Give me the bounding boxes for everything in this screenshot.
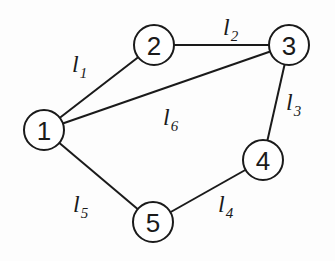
node-label: 3 — [282, 31, 296, 61]
edge-label-l5: l5 — [73, 191, 89, 221]
node-5: 5 — [133, 202, 173, 242]
node-label: 2 — [147, 31, 161, 61]
graph-diagram: 12345 l1l2l3l4l5l6 — [0, 0, 335, 261]
edge-label-l6: l6 — [163, 104, 179, 134]
edge-label-l1: l1 — [72, 51, 87, 81]
node-4: 4 — [243, 140, 283, 180]
edge-label-l2: l2 — [223, 14, 239, 44]
node-1: 1 — [24, 110, 64, 150]
node-3: 3 — [269, 25, 309, 65]
edge-l5 — [44, 130, 153, 222]
node-label: 5 — [146, 208, 160, 238]
graph-svg: 12345 l1l2l3l4l5l6 — [0, 0, 335, 261]
node-label: 1 — [37, 116, 51, 146]
node-label: 4 — [256, 146, 270, 176]
node-2: 2 — [134, 25, 174, 65]
edge-label-l4: l4 — [218, 191, 234, 221]
edge-label-l3: l3 — [286, 89, 301, 119]
